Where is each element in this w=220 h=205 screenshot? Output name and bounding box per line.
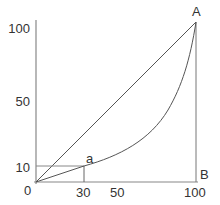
x-tick-100: 100 — [184, 186, 206, 199]
y-tick-10: 10 — [2, 161, 30, 174]
point-a-label-upper: A — [192, 5, 201, 18]
y-tick-50: 50 — [2, 95, 30, 108]
point-a-label-lower: a — [86, 152, 93, 165]
lorenz-chart — [0, 0, 220, 205]
y-tick-100: 100 — [2, 22, 30, 35]
x-tick-30: 30 — [76, 186, 90, 199]
origin-label: 0 — [24, 184, 31, 197]
x-tick-50: 50 — [110, 186, 124, 199]
point-b-label: B — [200, 168, 209, 181]
